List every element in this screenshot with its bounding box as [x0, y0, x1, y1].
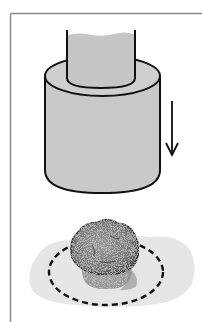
diagram-frame	[0, 0, 202, 322]
shaft-icon	[67, 30, 135, 88]
arrow-down-icon	[166, 101, 178, 155]
